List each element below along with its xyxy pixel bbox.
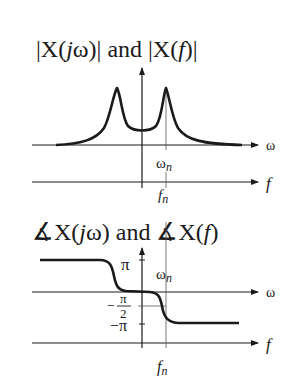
magnitude-f-axis-label: f [266,174,273,193]
magnitude-curve [56,88,242,145]
magnitude-omega-axis-label: ω [266,138,275,153]
phase-neg-pi-label: −π [110,317,127,334]
frequency-response-diagram: |X(jω)| and |X(f)| ω f ωn fn ∡X(jω) and … [0,0,298,383]
magnitude-f-n-label: fn [158,187,168,206]
svg-text:−: − [107,298,115,313]
magnitude-title: |X(jω)| and |X(f)| [36,36,198,62]
phase-title: ∡X(jω) and ∡X(f) [32,219,218,245]
svg-text:π: π [120,291,127,306]
phase-omega-axis-label: ω [266,285,275,300]
phase-pi-label: π [121,255,130,274]
phase-f-axis-label: f [266,335,273,354]
phase-omega-n-label: ωn [156,266,172,285]
phase-f-n-label: fn [157,358,167,378]
magnitude-omega-n-label: ωn [156,155,172,174]
